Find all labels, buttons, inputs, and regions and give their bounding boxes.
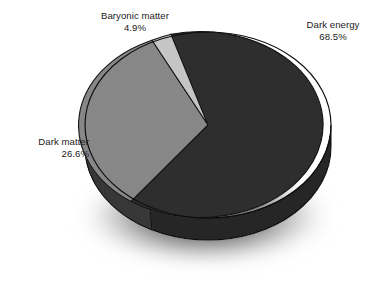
slice-label-dark-matter: Dark matter 26.6% <box>5 136 89 159</box>
slice-label-baryonic-matter: Baryonic matter 4.9% <box>76 10 194 33</box>
slice-label-dark-energy-name: Dark energy <box>292 19 374 31</box>
slice-label-dark-matter-percent: 26.6% <box>5 148 89 160</box>
slice-label-dark-energy-percent: 68.5% <box>292 31 374 43</box>
pie-chart-figure: Baryonic matter 4.9% Dark energy 68.5% D… <box>0 0 379 293</box>
slice-label-baryonic-matter-name: Baryonic matter <box>76 10 194 22</box>
slice-label-baryonic-matter-percent: 4.9% <box>76 22 194 34</box>
slice-label-dark-energy: Dark energy 68.5% <box>292 19 374 42</box>
slice-label-dark-matter-name: Dark matter <box>5 136 89 148</box>
